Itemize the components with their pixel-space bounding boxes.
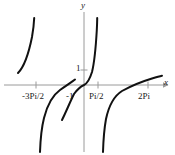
y-tick-label-one: 1 [76,64,81,73]
x-axis-label: x [164,78,168,87]
plot-canvas [0,0,175,155]
x-tick-label-pi-over-2: Pi/2 [89,92,104,101]
x-tick-label-neg-3pi-over-2: -3Pi/2 [22,92,44,101]
y-axis-label: y [81,1,85,10]
curve-branch-left-upper [18,18,34,73]
tangent-function-graph: -3Pi/2 -1 Pi/2 2Pi 1 x y [0,0,175,155]
x-tick-label-2pi: 2Pi [138,92,150,101]
x-tick-label-neg-one: -1 [66,92,74,101]
curve-branch-right [103,76,162,152]
